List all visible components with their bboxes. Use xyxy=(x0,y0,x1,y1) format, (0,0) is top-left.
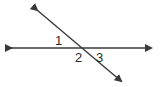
angle-label-1: 1 xyxy=(55,33,62,48)
angle-label-3: 3 xyxy=(96,50,103,65)
transversal-line xyxy=(37,10,121,81)
angle-label-2: 2 xyxy=(75,50,82,65)
angle-diagram: 1 2 3 xyxy=(0,0,164,87)
